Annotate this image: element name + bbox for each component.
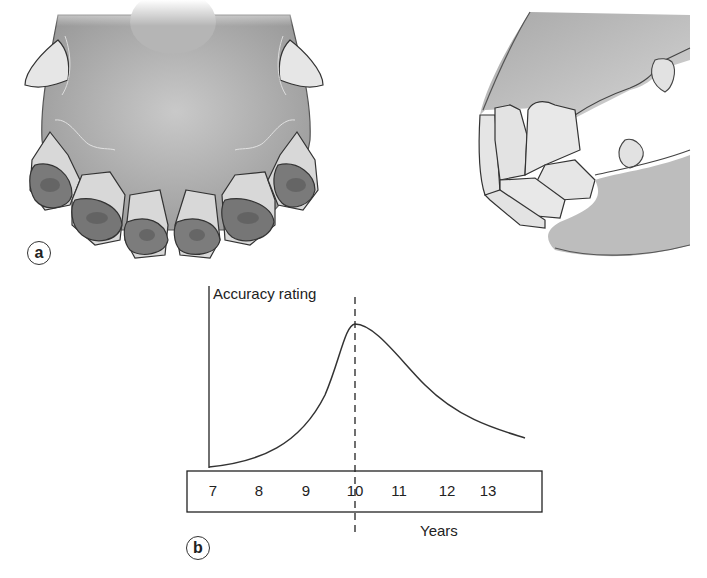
panel-label-a: a <box>27 241 51 265</box>
occlusal-arch-illustration <box>25 0 323 258</box>
y-axis-label: Accuracy rating <box>213 285 316 302</box>
accuracy-chart <box>187 286 542 537</box>
lateral-dentition-illustration <box>479 12 690 256</box>
x-tick-8: 8 <box>244 482 274 499</box>
x-tick-11: 11 <box>384 482 414 499</box>
accuracy-curve <box>209 324 525 467</box>
x-tick-12: 12 <box>432 482 462 499</box>
x-tick-9: 9 <box>291 482 321 499</box>
x-axis-label: Years <box>420 522 458 539</box>
x-tick-13: 13 <box>473 482 503 499</box>
x-tick-7: 7 <box>198 482 228 499</box>
x-tick-10: 10 <box>340 482 370 499</box>
panel-label-b: b <box>186 536 210 560</box>
